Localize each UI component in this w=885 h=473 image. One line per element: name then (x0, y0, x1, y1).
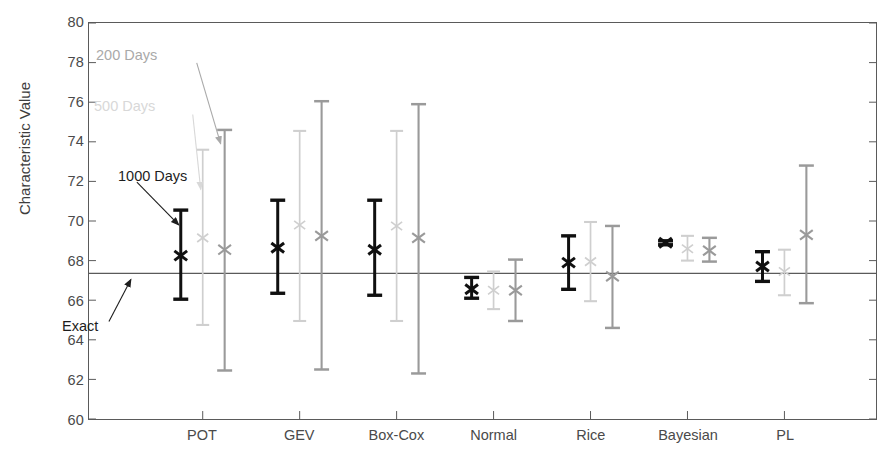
y-tick-62: 62 (50, 372, 84, 388)
error-bar-normal (508, 260, 523, 321)
annotation-1000-days: 1000 Days (118, 168, 187, 184)
x-tick-pot: POT (187, 427, 217, 443)
error-bar-pl (755, 252, 770, 282)
error-bar-rice (561, 236, 576, 289)
error-bar-gev (293, 131, 306, 321)
error-bar-pot (173, 210, 188, 299)
error-bar-bayesian (681, 236, 694, 261)
error-bar-gev (314, 101, 329, 369)
y-tick-66: 66 (50, 293, 84, 309)
annotation-arrow-1000-days (137, 182, 179, 225)
x-tick-rice: Rice (576, 427, 605, 443)
x-axis-tick-labels: POTGEVBox-CoxNormalRiceBayesianPL (88, 427, 877, 451)
error-bar-box-cox (367, 200, 382, 295)
characteristic-value-error-bar-chart: Characteristic Value 8078767472706866646… (0, 0, 885, 473)
annotation-exact: Exact (62, 318, 98, 334)
x-tick-bayesian: Bayesian (658, 427, 718, 443)
y-tick-80: 80 (50, 14, 84, 30)
error-bar-gev (270, 200, 285, 293)
y-tick-64: 64 (50, 332, 84, 348)
error-bar-bayesian (658, 238, 673, 248)
annotation-arrow-200-days (197, 63, 221, 144)
annotation-500-days: 500 Days (94, 98, 155, 114)
series-200-days (217, 101, 814, 373)
y-tick-60: 60 (50, 412, 84, 428)
x-tick-box-cox: Box-Cox (369, 427, 425, 443)
annotation-200-days: 200 Days (96, 47, 157, 63)
error-bar-rice (605, 226, 620, 328)
error-bar-rice (584, 222, 597, 301)
y-tick-70: 70 (50, 213, 84, 229)
x-tick-gev: GEV (284, 427, 315, 443)
y-tick-72: 72 (50, 173, 84, 189)
error-bar-box-cox (411, 104, 426, 373)
y-axis-tick-labels: 8078767472706866646260 (44, 22, 84, 420)
series-500-days (196, 131, 791, 325)
y-tick-74: 74 (50, 133, 84, 149)
y-tick-76: 76 (50, 94, 84, 110)
y-tick-78: 78 (50, 54, 84, 70)
error-bar-pl (799, 166, 814, 304)
y-tick-68: 68 (50, 253, 84, 269)
error-bar-bayesian (702, 238, 717, 262)
x-tick-pl: PL (776, 427, 794, 443)
error-bar-normal (487, 271, 500, 309)
plot-area (88, 22, 877, 420)
x-tick-normal: Normal (470, 427, 517, 443)
y-axis-title: Characteristic Value (16, 49, 33, 249)
error-bar-pot (217, 130, 232, 371)
error-bar-box-cox (390, 131, 403, 321)
annotation-arrow-500-days (193, 115, 201, 190)
series-1000-days (173, 200, 770, 299)
error-bar-pl (778, 250, 791, 296)
error-bar-pot (196, 150, 209, 325)
plot-canvas (89, 23, 876, 419)
annotation-arrow-exact (109, 279, 131, 321)
error-bar-normal (464, 277, 479, 298)
